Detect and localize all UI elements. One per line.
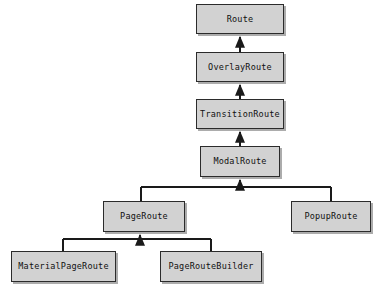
class-node-label: Route [227,15,254,24]
class-node-pageroute[interactable]: PageRoute [103,201,185,232]
class-node-label: OverlayRoute [208,63,272,72]
class-node-label: PageRouteBuilder [168,262,253,271]
class-hierarchy-diagram: Route OverlayRoute TransitionRoute Modal… [0,0,377,295]
class-node-label: PageRoute [120,212,168,221]
class-node-label: TransitionRoute [200,110,280,119]
class-node-route[interactable]: Route [196,4,284,34]
class-node-modalroute[interactable]: ModalRoute [200,146,280,177]
class-node-label: MaterialPageRoute [18,262,108,271]
class-node-popuproute[interactable]: PopupRoute [291,201,371,232]
class-node-materialpageroute[interactable]: MaterialPageRoute [11,251,116,282]
class-node-pageroutebuilder[interactable]: PageRouteBuilder [160,251,262,282]
class-node-label: PopupRoute [304,212,357,221]
class-node-overlayroute[interactable]: OverlayRoute [196,52,284,82]
class-node-label: ModalRoute [213,157,266,166]
class-node-transitionroute[interactable]: TransitionRoute [196,99,284,129]
